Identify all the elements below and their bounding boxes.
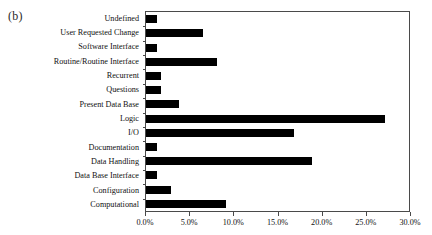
x-axis-ticks (145, 212, 410, 217)
y-axis-tick (143, 156, 146, 157)
category-label: User Requested Change (60, 28, 142, 37)
category-label: Undefined (104, 14, 142, 23)
x-axis-tick-label: 25.0% (346, 218, 386, 228)
y-axis-tick (143, 141, 146, 142)
bar-series (146, 12, 409, 211)
x-axis-tick (322, 212, 323, 216)
bar (146, 171, 157, 179)
bar (146, 143, 157, 151)
x-axis-tick (189, 212, 190, 216)
y-axis-tick (143, 199, 146, 200)
bar (146, 186, 171, 194)
category-label: Recurrent (107, 71, 142, 80)
y-axis-tick (143, 69, 146, 70)
bar (146, 100, 179, 108)
bar (146, 29, 203, 37)
bar (146, 115, 385, 123)
bar (146, 15, 157, 23)
bar-row (146, 43, 409, 52)
bar-row (146, 185, 409, 194)
category-label: I/O (128, 128, 142, 137)
y-axis-tick (143, 26, 146, 27)
y-axis-tick (143, 55, 146, 56)
bar (146, 44, 157, 52)
category-label: Data Handling (91, 157, 142, 166)
x-axis-tick-label: 30.0% (390, 218, 430, 228)
bar (146, 86, 161, 94)
y-axis-tick (143, 127, 146, 128)
category-label: Software Interface (78, 42, 142, 51)
bar-row (146, 15, 409, 24)
x-axis-tick-label: 10.0% (213, 218, 253, 228)
x-axis-tick (366, 212, 367, 216)
bar-row (146, 128, 409, 137)
x-axis-tick (410, 212, 411, 216)
category-axis-labels: UndefinedUser Requested ChangeSoftware I… (0, 11, 142, 212)
category-label: Configuration (93, 186, 142, 195)
category-label: Questions (106, 85, 142, 94)
y-axis-tick (143, 184, 146, 185)
bar (146, 72, 161, 80)
plot-area (145, 11, 410, 212)
category-label: Documentation (89, 143, 142, 152)
bar-row (146, 71, 409, 80)
y-axis-tick (143, 98, 146, 99)
x-axis-tick-label: 5.0% (169, 218, 209, 228)
bar-row (146, 171, 409, 180)
x-axis-tick-label: 20.0% (302, 218, 342, 228)
bar (146, 157, 312, 165)
bar-row (146, 142, 409, 151)
y-axis-tick (143, 41, 146, 42)
y-axis-tick (143, 84, 146, 85)
bar-row (146, 100, 409, 109)
bar (146, 129, 294, 137)
bar-row (146, 29, 409, 38)
category-label: Computational (90, 200, 142, 209)
category-label: Data Base Interface (74, 171, 142, 180)
y-axis-tick (143, 170, 146, 171)
x-axis-tick-label: 0.0% (125, 218, 165, 228)
x-axis-tick (278, 212, 279, 216)
category-label: Logic (120, 114, 142, 123)
category-label: Present Data Base (79, 100, 142, 109)
x-axis-tick (233, 212, 234, 216)
x-axis-tick-label: 15.0% (258, 218, 298, 228)
bar-row (146, 199, 409, 208)
bar-row (146, 57, 409, 66)
x-axis-tick (145, 212, 146, 216)
figure-panel-b: (b) UndefinedUser Requested ChangeSoftwa… (0, 0, 432, 235)
bar-row (146, 114, 409, 123)
category-label: Routine/Routine Interface (54, 57, 142, 66)
bar-row (146, 86, 409, 95)
bar (146, 58, 217, 66)
x-axis-tick-labels: 0.0%5.0%10.0%15.0%20.0%25.0%30.0% (0, 218, 432, 232)
bar (146, 200, 226, 208)
bar-row (146, 157, 409, 166)
y-axis-tick (143, 113, 146, 114)
